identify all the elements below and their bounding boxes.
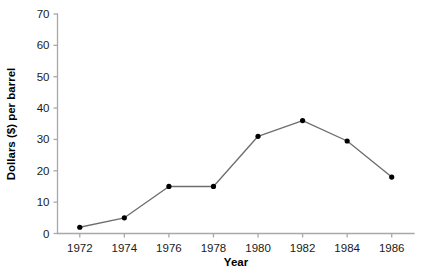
data-point-marker (77, 225, 82, 230)
data-series-markers (77, 118, 394, 230)
data-point-marker (166, 184, 171, 189)
data-point-marker (122, 215, 127, 220)
y-tick-label: 70 (37, 8, 50, 20)
y-tick-label: 60 (37, 39, 50, 51)
x-tick-label: 1982 (290, 242, 316, 254)
data-point-marker (345, 138, 350, 143)
line-chart: 010203040506070 197219741976197819801982… (0, 0, 432, 276)
y-tick-label: 40 (37, 102, 50, 114)
y-axis-title: Dollars ($) per barrel (5, 68, 17, 180)
x-tick-label: 1984 (334, 242, 360, 254)
x-tick-label: 1974 (112, 242, 138, 254)
y-tick-label: 0 (43, 228, 49, 240)
x-axis-title: Year (224, 256, 249, 268)
data-point-marker (211, 184, 216, 189)
x-tick-label: 1980 (245, 242, 271, 254)
y-tick-label: 50 (37, 71, 50, 83)
x-tick-label: 1986 (379, 242, 405, 254)
y-tick-label: 30 (37, 133, 50, 145)
chart-canvas: 010203040506070 197219741976197819801982… (0, 0, 432, 276)
y-tick-label: 20 (37, 165, 50, 177)
data-point-marker (255, 134, 260, 139)
y-tick-labels: 010203040506070 (37, 8, 50, 240)
data-series-line (80, 121, 392, 228)
x-tick-labels: 19721974197619781980198219841986 (67, 242, 405, 254)
x-tick-label: 1978 (201, 242, 227, 254)
y-tick-label: 10 (37, 196, 50, 208)
data-point-marker (300, 118, 305, 123)
x-tick-label: 1976 (156, 242, 182, 254)
data-point-marker (389, 174, 394, 179)
x-tick-label: 1972 (67, 242, 93, 254)
